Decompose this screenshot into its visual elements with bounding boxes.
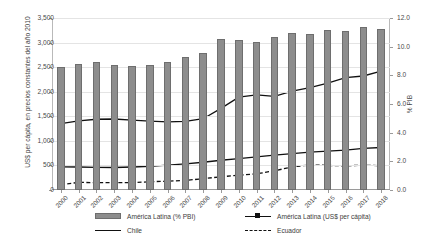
- y-tick-label-left: 3,500: [37, 14, 54, 21]
- bar-swatch-icon: [95, 211, 121, 221]
- x-tick-label: 2003: [106, 194, 122, 210]
- y-tick-mark-right: [390, 190, 393, 191]
- x-tick-mark: [221, 190, 222, 193]
- y-tick-label-right: 0.0: [397, 186, 406, 193]
- gridline: [52, 18, 390, 19]
- bar: [271, 37, 278, 190]
- x-tick-mark: [132, 190, 133, 193]
- x-tick-label: 2001: [70, 194, 86, 210]
- y-tick-label-left: 3,000: [37, 39, 54, 46]
- y-tick-label-right: 8.0: [397, 71, 406, 78]
- bar: [128, 66, 135, 190]
- legend-item-ecuador[interactable]: Ecuador: [245, 225, 390, 235]
- bar: [360, 27, 367, 190]
- bar: [288, 33, 295, 190]
- y-axis-label-right: % PIB: [406, 74, 414, 134]
- y-tick-label-left: 1,000: [37, 137, 54, 144]
- x-tick-label: 2015: [319, 194, 335, 210]
- legend-item-chile[interactable]: Chile: [95, 225, 245, 235]
- x-tick-mark: [310, 190, 311, 193]
- x-tick-mark: [114, 190, 115, 193]
- x-tick-mark: [79, 190, 80, 193]
- x-tick-mark: [292, 190, 293, 193]
- bar: [164, 62, 171, 190]
- bar: [217, 39, 224, 190]
- x-tick-mark: [61, 190, 62, 193]
- x-tick-label: 2002: [88, 194, 104, 210]
- bar: [306, 34, 313, 190]
- y-tick-label-right: 10.0: [397, 43, 410, 50]
- bar: [324, 30, 331, 190]
- line-swatch-icon: [95, 225, 121, 235]
- x-tick-mark: [381, 190, 382, 193]
- legend-label: Chile: [127, 227, 142, 234]
- y-tick-label-left: 500: [43, 161, 54, 168]
- legend-row-1: América Latina (% PBI) América Latina (U…: [95, 209, 390, 223]
- bar: [93, 62, 100, 190]
- bar: [57, 67, 64, 190]
- legend-label: América Latina (US$ per cápita): [277, 213, 371, 220]
- y-tick-mark-right: [390, 104, 393, 105]
- y-tick-label-right: 12.0: [397, 14, 410, 21]
- x-tick-mark: [96, 190, 97, 193]
- bar: [235, 40, 242, 191]
- x-tick-label: 2018: [373, 194, 389, 210]
- x-tick-mark: [185, 190, 186, 193]
- legend-row-2: Chile Ecuador: [95, 223, 390, 237]
- chart-container: US$ per cápita, en precios constantes de…: [0, 0, 435, 247]
- x-tick-mark: [363, 190, 364, 193]
- x-tick-label: 2004: [124, 194, 140, 210]
- y-tick-label-left: 2,000: [37, 88, 54, 95]
- x-tick-mark: [328, 190, 329, 193]
- legend-item-america-latina-percapita[interactable]: América Latina (US$ per cápita): [245, 211, 390, 221]
- x-tick-label: 2013: [284, 194, 300, 210]
- y-tick-mark-right: [390, 18, 393, 19]
- x-tick-label: 2009: [213, 194, 229, 210]
- chart-legend: América Latina (% PBI) América Latina (U…: [95, 209, 390, 237]
- x-tick-label: 2016: [337, 194, 353, 210]
- x-tick-mark: [346, 190, 347, 193]
- bar: [253, 42, 260, 190]
- y-tick-mark-right: [390, 47, 393, 48]
- legend-item-america-latina-pbi[interactable]: América Latina (% PBI): [95, 211, 245, 221]
- bar: [342, 31, 349, 190]
- x-tick-mark: [257, 190, 258, 193]
- x-tick-label: 2007: [177, 194, 193, 210]
- y-tick-label-left: 1,500: [37, 112, 54, 119]
- y-tick-label-left: 2,500: [37, 63, 54, 70]
- x-tick-label: 2017: [355, 194, 371, 210]
- x-tick-label: 2014: [302, 194, 318, 210]
- y-axis-label-left: US$ per cápita, en precios constantes de…: [24, 12, 32, 172]
- y-tick-label-right: 2.0: [397, 157, 406, 164]
- x-tick-mark: [239, 190, 240, 193]
- x-tick-label: 2005: [142, 194, 158, 210]
- x-tick-label: 2011: [248, 194, 264, 210]
- legend-label: Ecuador: [277, 227, 302, 234]
- line-marker-swatch-icon: [245, 211, 271, 221]
- y-tick-label-right: 6.0: [397, 100, 406, 107]
- y-tick-label-left: 0: [50, 186, 54, 193]
- bar: [75, 64, 82, 190]
- bar: [111, 65, 118, 190]
- plot-area: [52, 18, 390, 190]
- y-tick-label-right: 4.0: [397, 129, 406, 136]
- x-tick-mark: [168, 190, 169, 193]
- bar: [146, 65, 153, 190]
- x-tick-label: 2006: [159, 194, 175, 210]
- x-tick-mark: [150, 190, 151, 193]
- x-tick-mark: [274, 190, 275, 193]
- dashed-line-swatch-icon: [245, 225, 271, 235]
- y-tick-mark-right: [390, 75, 393, 76]
- x-tick-mark: [203, 190, 204, 193]
- x-tick-label: 2012: [266, 194, 282, 210]
- bar: [199, 53, 206, 190]
- bar: [377, 29, 384, 190]
- y-tick-mark-right: [390, 161, 393, 162]
- bar: [182, 57, 189, 190]
- x-tick-label: 2008: [195, 194, 211, 210]
- y-tick-mark-right: [390, 133, 393, 134]
- x-tick-label: 2000: [53, 194, 69, 210]
- x-tick-label: 2010: [230, 194, 246, 210]
- legend-label: América Latina (% PBI): [127, 213, 196, 220]
